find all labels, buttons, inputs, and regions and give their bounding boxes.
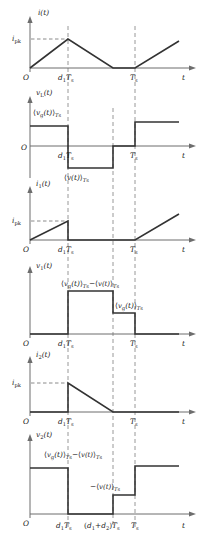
x-tick-ts-1: Ts <box>130 73 138 83</box>
x-tick-d1ts-6: d1Ts <box>56 521 72 531</box>
level-label-vg-minus-v-6: ⟨vg(t)⟩Ts−⟨v(t)⟩Ts <box>44 450 102 461</box>
dcm-waveform-figure: i(t) ipk O d1Ts Ts t vL(t) ⟨vg(t)⟩Ts O d… <box>0 0 206 544</box>
axis-label-vl-t: vL(t) <box>36 88 52 98</box>
axis-label-i-t: i(t) <box>38 8 49 17</box>
x-tick-d1ts-4: d1Ts <box>58 339 74 349</box>
y-tick-ipk-3: ipk <box>12 216 22 227</box>
plot-i1-t: i1(t) ipk O d1Ts Ts t <box>12 179 196 255</box>
axis-label-v1-t: v1(t) <box>36 261 52 271</box>
y-tick-ipk-1: ipk <box>12 34 22 45</box>
level-label-vg-minus-v-4: ⟨vg(t)⟩Ts−⟨v(t)⟩Ts <box>61 279 119 290</box>
origin-label-5: O <box>23 417 29 426</box>
origin-label-1: O <box>23 73 29 82</box>
origin-label-3: O <box>23 245 29 254</box>
x-axis-label-2: t <box>182 151 185 160</box>
x-tick-d1ts-2: d1Ts <box>58 151 74 161</box>
x-tick-d1ts-5: d1Ts <box>58 417 74 427</box>
x-tick-ts-2: Ts <box>130 151 138 161</box>
origin-label-4: O <box>23 339 29 348</box>
x-tick-ts-3: Ts <box>130 245 138 255</box>
level-label-minus-v-6: −⟨v(t)⟩Ts <box>90 482 121 492</box>
waveform-i2-t <box>30 383 179 412</box>
level-label-vg-2: ⟨vg(t)⟩Ts <box>33 108 62 119</box>
x-tick-ts-5: Ts <box>130 417 138 427</box>
waveform-svg: i(t) ipk O d1Ts Ts t vL(t) ⟨vg(t)⟩Ts O d… <box>0 0 206 544</box>
plot-v2-t: v2(t) ⟨vg(t)⟩Ts−⟨v(t)⟩Ts −⟨v(t)⟩Ts O d1T… <box>23 430 196 531</box>
waveform-vl-t <box>30 122 179 168</box>
x-axis-label-4: t <box>182 339 185 348</box>
axis-label-i2-t: i2(t) <box>36 350 51 360</box>
waveform-i1-t <box>30 214 179 240</box>
x-axis-label-1: t <box>182 73 185 82</box>
origin-label-6: O <box>23 519 29 528</box>
axis-label-i1-t: i1(t) <box>36 179 51 189</box>
axis-label-v2-t: v2(t) <box>36 430 52 440</box>
plot-vl-t: vL(t) ⟨vg(t)⟩Ts O d1Ts Ts ⟨v(t)⟩Ts t <box>21 88 196 183</box>
x-tick-ts-4: Ts <box>130 339 138 349</box>
plot-i-t: i(t) ipk O d1Ts Ts t <box>12 8 196 83</box>
x-axis-label-6: t <box>182 521 185 530</box>
x-tick-d1d2ts-6: (d1+d2)Ts <box>84 521 120 531</box>
waveform-v1-t <box>30 291 179 334</box>
waveform-i-t <box>30 39 179 68</box>
x-tick-ts-6: Ts <box>131 521 139 531</box>
level-label-v-2: ⟨v(t)⟩Ts <box>64 173 89 183</box>
x-axis-label-5: t <box>182 417 185 426</box>
level-label-vg-4: ⟨vg(t)⟩Ts <box>115 301 143 312</box>
plot-i2-t: i2(t) ipk O d1Ts Ts t <box>12 350 196 427</box>
plot-v1-t: v1(t) ⟨vg(t)⟩Ts−⟨v(t)⟩Ts ⟨vg(t)⟩Ts O d1T… <box>23 261 196 349</box>
origin-label-2: O <box>21 143 27 152</box>
x-axis-label-3: t <box>182 245 185 254</box>
x-tick-d1ts-1: d1Ts <box>58 73 74 83</box>
y-tick-ipk-5: ipk <box>12 378 22 389</box>
x-tick-d1ts-3: d1Ts <box>58 245 74 255</box>
